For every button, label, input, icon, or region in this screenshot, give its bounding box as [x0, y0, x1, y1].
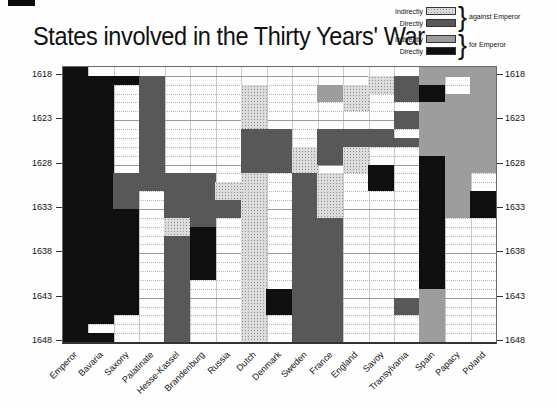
y-tick-mark [497, 207, 503, 208]
legend-swatch-direct-against [426, 19, 456, 27]
y-tick-mark [497, 296, 503, 297]
heatmap-cell [445, 94, 471, 218]
x-axis-label-text: Spain [413, 349, 436, 372]
y-tick-mark [56, 163, 62, 164]
y-axis-label-left: 1638 [22, 246, 52, 256]
scan-artifact-mark [8, 0, 35, 6]
legend-entry-label: Directly [385, 48, 423, 55]
y-axis-label-right: 1623 [505, 113, 535, 123]
y-tick-mark [497, 163, 503, 164]
heatmap-cell [394, 298, 420, 316]
heatmap-cell [215, 200, 241, 218]
heatmap-cell [113, 173, 139, 208]
y-axis-label-right: 1648 [505, 335, 535, 345]
y-axis-label-left: 1628 [22, 158, 52, 168]
heatmap-cell [88, 76, 114, 324]
heatmap-cell [445, 67, 471, 76]
legend-swatch-indirect-for [426, 35, 456, 43]
heatmap-cell [63, 67, 88, 342]
heatmap-cell [241, 85, 267, 129]
x-axis-label-text: Poland [460, 349, 487, 376]
heatmap-cell [292, 147, 318, 174]
heatmap-cell [113, 76, 139, 85]
y-tick-mark [497, 251, 503, 252]
legend-swatch-direct-for [426, 47, 456, 55]
legend-brace-icon: } [458, 32, 468, 58]
heatmap-cell [292, 173, 318, 342]
heatmap-cell [368, 129, 394, 147]
heatmap-cell [394, 138, 420, 147]
heatmap-cell [241, 173, 267, 342]
heatmap-plot [62, 66, 497, 344]
heatmap-cell [470, 67, 496, 173]
x-axis-label-text: Emperor [48, 349, 79, 380]
heatmap-cell [215, 182, 241, 200]
heatmap-cell [368, 165, 394, 192]
y-tick-mark [497, 340, 503, 341]
legend-entry-label: Directly [385, 20, 423, 27]
chart-page: States involved in the Thirty Years' War… [0, 0, 557, 408]
heatmap-cell [419, 102, 445, 155]
legend-swatch-indirect-against [426, 7, 456, 15]
heatmap-cell [266, 289, 292, 316]
legend-entry-label: Indirectly [385, 8, 423, 15]
y-axis-label-left: 1643 [22, 291, 52, 301]
heatmap-cell [343, 129, 369, 147]
y-axis-label-right: 1628 [505, 158, 535, 168]
heatmap-cell [139, 76, 165, 191]
y-tick-mark [56, 251, 62, 252]
heatmap-cell [241, 129, 267, 173]
y-tick-mark [497, 74, 503, 75]
y-axis-label-right: 1643 [505, 291, 535, 301]
grid-vline [369, 67, 370, 342]
heatmap-cell [113, 209, 139, 315]
heatmap-cell [419, 67, 445, 85]
heatmap-cell [317, 218, 343, 342]
heatmap-cell [470, 191, 496, 218]
heatmap-cell [190, 227, 216, 280]
heatmap-cell [164, 173, 190, 217]
chart-title: States involved in the Thirty Years' War [33, 22, 425, 51]
y-tick-mark [56, 118, 62, 119]
heatmap-cell [266, 129, 292, 173]
heatmap-cell [419, 85, 445, 103]
legend-group-label: against Emperor [469, 13, 520, 20]
x-axis-label-text: Bavaria [76, 349, 105, 378]
heatmap-cell [164, 236, 190, 342]
heatmap-cell [343, 147, 369, 174]
y-tick-mark [497, 118, 503, 119]
legend-brace-icon: } [458, 4, 468, 30]
heatmap-cell [317, 85, 343, 103]
y-tick-mark [56, 296, 62, 297]
heatmap-cell [164, 218, 190, 236]
heatmap-cell [317, 129, 343, 164]
legend-entry-label: Indirectly [385, 36, 423, 43]
y-axis-label-right: 1638 [505, 246, 535, 256]
heatmap-cell [190, 173, 216, 226]
y-axis-label-left: 1618 [22, 69, 52, 79]
y-axis-label-right: 1633 [505, 202, 535, 212]
y-axis-label-left: 1633 [22, 202, 52, 212]
heatmap-cell [394, 76, 420, 103]
y-axis-label-right: 1618 [505, 69, 535, 79]
x-axis-label-text: Russia [206, 349, 233, 376]
legend-group-label: for Emperor [469, 41, 506, 48]
y-tick-mark [56, 74, 62, 75]
heatmap-cell [88, 333, 114, 342]
y-tick-mark [56, 340, 62, 341]
heatmap-cell [394, 111, 420, 129]
x-axis-label-text: Sweden [279, 349, 309, 379]
x-axis-label-text: England [329, 349, 359, 379]
y-tick-mark [56, 207, 62, 208]
heatmap-cell [317, 173, 343, 217]
y-axis-label-left: 1648 [22, 335, 52, 345]
heatmap-cell [419, 289, 445, 342]
heatmap-cell [343, 85, 369, 112]
x-axis-label-text: Papacy [433, 349, 461, 377]
heatmap-cell [419, 156, 445, 289]
y-axis-label-left: 1623 [22, 113, 52, 123]
heatmap-cell [368, 76, 394, 94]
